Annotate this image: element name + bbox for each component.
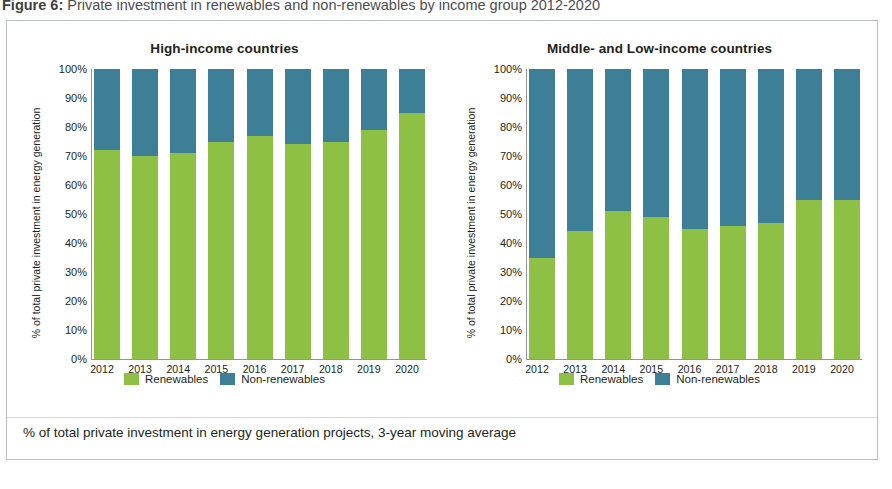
- bar-segment-renewables: [285, 144, 311, 359]
- bar-segment-renewables: [361, 130, 387, 359]
- y-tick-90: 90%: [53, 92, 87, 104]
- y-tick-30: 30%: [53, 266, 87, 278]
- bar-segment-nonrenewables: [399, 69, 425, 113]
- bar-segment-renewables: [567, 231, 593, 359]
- legend-swatch-nonrenewables-icon: [655, 373, 670, 385]
- bar-segment-nonrenewables: [643, 69, 669, 217]
- bar-column: [361, 69, 387, 359]
- y-tick-80: 80%: [53, 121, 87, 133]
- bar-segment-nonrenewables: [567, 69, 593, 231]
- bar-segment-renewables: [247, 136, 273, 359]
- bar-segment-renewables: [170, 153, 196, 359]
- plot-area-middle-low-income: 100% 90% 80% 70% 60% 50% 40% 30% 20% 10%…: [488, 69, 866, 369]
- bar-segment-renewables: [720, 226, 746, 359]
- bar-segment-renewables: [796, 200, 822, 360]
- y-tick-10: 10%: [53, 324, 87, 336]
- bar-column: [682, 69, 708, 359]
- figure-page: Figure 6: Private investment in renewabl…: [0, 0, 892, 489]
- bar-segment-nonrenewables: [132, 69, 158, 156]
- y-axis-title-high-income: % of total private investment in energy …: [30, 88, 42, 358]
- y-tick-20: 20%: [488, 295, 522, 307]
- bar-segment-nonrenewables: [323, 69, 349, 142]
- y-tick-40: 40%: [53, 237, 87, 249]
- bars-middle-low-income: [529, 69, 860, 359]
- chart-title-high-income: High-income countries: [7, 41, 442, 56]
- bar-column: [758, 69, 784, 359]
- x-axis-line-middle-low-income: [526, 359, 862, 360]
- legend-item-renewables: Renewables: [124, 373, 208, 385]
- bar-column: [208, 69, 234, 359]
- y-tick-20: 20%: [53, 295, 87, 307]
- bar-column: [796, 69, 822, 359]
- bar-column: [567, 69, 593, 359]
- bar-segment-nonrenewables: [529, 69, 555, 258]
- y-tick-labels-high-income: 100% 90% 80% 70% 60% 50% 40% 30% 20% 10%…: [53, 69, 87, 359]
- bars-high-income: [94, 69, 425, 359]
- chart-high-income: High-income countries % of total private…: [7, 21, 442, 417]
- legend-label-renewables: Renewables: [580, 373, 643, 385]
- y-tick-30: 30%: [488, 266, 522, 278]
- bar-column: [834, 69, 860, 359]
- bar-column: [285, 69, 311, 359]
- legend-swatch-renewables-icon: [559, 373, 574, 385]
- plot-area-high-income: 100% 90% 80% 70% 60% 50% 40% 30% 20% 10%…: [53, 69, 431, 369]
- figure-caption: Figure 6: Private investment in renewabl…: [2, 0, 888, 16]
- bar-segment-renewables: [643, 217, 669, 359]
- legend-high-income: Renewables Non-renewables: [7, 373, 442, 385]
- charts-row: High-income countries % of total private…: [7, 21, 877, 417]
- y-axis-title-middle-low-income: % of total private investment in energy …: [465, 88, 477, 358]
- y-tick-100: 100%: [488, 63, 522, 75]
- y-tick-70: 70%: [53, 150, 87, 162]
- bar-segment-nonrenewables: [605, 69, 631, 211]
- bar-segment-nonrenewables: [208, 69, 234, 142]
- y-tick-40: 40%: [488, 237, 522, 249]
- bar-segment-nonrenewables: [796, 69, 822, 200]
- bar-segment-renewables: [94, 150, 120, 359]
- y-tick-100: 100%: [53, 63, 87, 75]
- footnote-divider: [7, 417, 877, 418]
- bar-segment-renewables: [834, 200, 860, 360]
- bar-segment-nonrenewables: [247, 69, 273, 136]
- bar-segment-renewables: [323, 142, 349, 360]
- bar-column: [94, 69, 120, 359]
- figure-number: Figure 6:: [2, 0, 63, 13]
- bar-column: [247, 69, 273, 359]
- bar-column: [605, 69, 631, 359]
- bar-segment-renewables: [132, 156, 158, 359]
- bar-segment-renewables: [399, 113, 425, 360]
- y-tick-10: 10%: [488, 324, 522, 336]
- y-tick-90: 90%: [488, 92, 522, 104]
- bar-column: [529, 69, 555, 359]
- bar-segment-renewables: [529, 258, 555, 360]
- footnote-text: % of total private investment in energy …: [23, 425, 516, 440]
- bar-column: [399, 69, 425, 359]
- figure-caption-text: Private investment in renewables and non…: [67, 0, 600, 13]
- y-tick-50: 50%: [53, 208, 87, 220]
- legend-item-nonrenewables: Non-renewables: [655, 373, 760, 385]
- figure-panel: High-income countries % of total private…: [6, 20, 878, 460]
- legend-label-nonrenewables: Non-renewables: [676, 373, 760, 385]
- x-axis-line-high-income: [91, 359, 427, 360]
- y-tick-60: 60%: [53, 179, 87, 191]
- bar-column: [132, 69, 158, 359]
- bar-segment-nonrenewables: [94, 69, 120, 150]
- bar-segment-renewables: [208, 142, 234, 360]
- bar-segment-nonrenewables: [170, 69, 196, 153]
- bar-segment-nonrenewables: [285, 69, 311, 144]
- y-tick-labels-middle-low-income: 100% 90% 80% 70% 60% 50% 40% 30% 20% 10%…: [488, 69, 522, 359]
- bar-segment-renewables: [605, 211, 631, 359]
- bar-segment-nonrenewables: [682, 69, 708, 229]
- bar-column: [643, 69, 669, 359]
- bar-segment-renewables: [758, 223, 784, 359]
- y-tick-70: 70%: [488, 150, 522, 162]
- legend-item-renewables: Renewables: [559, 373, 643, 385]
- y-tick-50: 50%: [488, 208, 522, 220]
- legend-middle-low-income: Renewables Non-renewables: [442, 373, 877, 385]
- y-axis-line-middle-low-income: [526, 69, 527, 359]
- chart-title-middle-low-income: Middle- and Low-income countries: [442, 41, 877, 56]
- y-tick-60: 60%: [488, 179, 522, 191]
- bar-segment-nonrenewables: [758, 69, 784, 223]
- bar-segment-renewables: [682, 229, 708, 360]
- y-axis-line-high-income: [91, 69, 92, 359]
- legend-label-renewables: Renewables: [145, 373, 208, 385]
